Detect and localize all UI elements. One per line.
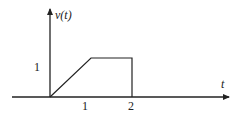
- waveform-diagram: v(t) t 1 1 2: [0, 0, 236, 116]
- y-tick-label-1: 1: [34, 60, 40, 74]
- x-tick-label-2: 2: [128, 99, 134, 113]
- x-axis-label: t: [221, 77, 225, 91]
- y-axis-label: v(t): [55, 8, 72, 22]
- signal-line: [50, 58, 132, 97]
- x-tick-label-1: 1: [82, 99, 88, 113]
